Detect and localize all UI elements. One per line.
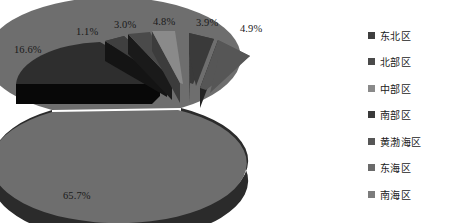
legend-label: 南海区 xyxy=(380,187,411,202)
legend-label: 东海区 xyxy=(380,160,411,175)
legend-item-east-sea[interactable]: 东海区 xyxy=(358,155,450,182)
legend-label: 南部区 xyxy=(380,107,411,122)
legend-swatch-icon xyxy=(368,111,375,118)
pie-label-south: 3.9% xyxy=(196,17,218,28)
pie-label-east-sea: 16.6% xyxy=(14,44,42,55)
legend-swatch-icon xyxy=(368,85,375,92)
legend-item-north[interactable]: 北部区 xyxy=(358,49,450,76)
legend-label: 中部区 xyxy=(380,81,411,96)
legend-swatch-icon xyxy=(368,164,375,171)
legend-swatch-icon xyxy=(368,191,375,198)
pie-label-yellow-bohai-sea: 4.9% xyxy=(240,23,262,34)
legend-item-central[interactable]: 中部区 xyxy=(358,75,450,102)
legend-label: 北部区 xyxy=(380,54,411,69)
pie-chart-graphic xyxy=(0,0,360,223)
legend-label: 黄渤海区 xyxy=(380,134,421,149)
pie-label-south-sea: 65.7% xyxy=(63,190,91,201)
legend-item-south[interactable]: 南部区 xyxy=(358,102,450,129)
legend-swatch-icon xyxy=(368,32,375,39)
pie-slice-south-sea[interactable] xyxy=(0,0,248,223)
legend-swatch-icon xyxy=(368,58,375,65)
legend-item-south-sea[interactable]: 南海区 xyxy=(358,181,450,208)
legend-swatch-icon xyxy=(368,138,375,145)
legend-item-northeast[interactable]: 东北区 xyxy=(358,22,450,49)
pie-label-northeast: 1.1% xyxy=(76,26,98,37)
pie-slice-east-sea-side xyxy=(16,84,152,104)
pie-chart: 16.6% 1.1% 3.0% 4.8% 3.9% 4.9% 65.7% xyxy=(0,0,360,223)
legend-label: 东北区 xyxy=(380,28,411,43)
legend-item-yellow-bohai-sea[interactable]: 黄渤海区 xyxy=(358,128,450,155)
pie-label-north: 3.0% xyxy=(114,19,136,30)
chart-legend: 东北区 北部区 中部区 南部区 黄渤海区 东海区 南海区 xyxy=(358,0,450,223)
pie-label-central: 4.8% xyxy=(153,16,175,27)
